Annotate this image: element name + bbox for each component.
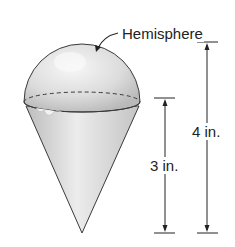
- total-height-label: 4 in.: [191, 123, 221, 140]
- cone: [26, 106, 139, 233]
- hemisphere: [24, 44, 140, 112]
- hemisphere-leader-arrow: [98, 33, 118, 48]
- hemisphere-label: Hemisphere: [121, 25, 204, 42]
- snow-cone-diagram: Hemisphere 4 in. 3 in.: [0, 0, 235, 247]
- cone-height-label: 3 in.: [149, 157, 179, 174]
